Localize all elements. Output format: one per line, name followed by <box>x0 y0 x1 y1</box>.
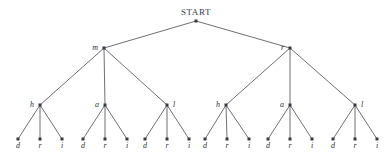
node-label-n-m: m <box>92 43 98 52</box>
node-label-l-ra-r: r <box>288 141 292 150</box>
tree-canvas: STARTmrhalhaldridridridridridri <box>0 0 392 157</box>
node-label-l-ml-d: d <box>143 141 148 150</box>
tree-edge <box>355 105 377 139</box>
tree-edge <box>268 105 290 139</box>
node-label-l-rl-r: r <box>353 141 357 150</box>
tree-edge <box>104 48 167 105</box>
node-label-l-ma-r: r <box>103 141 107 150</box>
tree-edge <box>104 48 105 105</box>
tree-edge <box>226 48 290 105</box>
node-label-l-ra-i: i <box>311 141 313 150</box>
tree-edge <box>83 105 105 139</box>
tree-node-root[interactable] <box>195 20 198 23</box>
tree-edge <box>105 105 127 139</box>
tree-edge <box>18 105 40 139</box>
tree-node-n-m-l[interactable] <box>166 104 169 107</box>
node-label-l-mh-r: r <box>38 141 42 150</box>
tree-edge <box>40 105 62 139</box>
edges-group <box>18 21 377 139</box>
tree-edge <box>145 105 167 139</box>
node-label-l-rh-r: r <box>225 141 229 150</box>
tree-edge <box>226 105 227 139</box>
tree-edge <box>104 21 196 48</box>
tree-edge <box>196 21 290 48</box>
decision-tree-diagram: STARTmrhalhaldridridridridridri <box>0 0 392 157</box>
node-label-l-ml-r: r <box>165 141 169 150</box>
tree-edge <box>40 48 104 105</box>
node-label-l-ma-d: d <box>81 141 86 150</box>
node-label-l-ma-i: i <box>126 141 128 150</box>
node-label-l-ml-i: i <box>188 141 190 150</box>
node-label-n-m-l: l <box>173 100 176 109</box>
tree-edge <box>205 105 226 139</box>
node-label-l-rh-i: i <box>248 141 250 150</box>
node-label-l-rh-d: d <box>203 141 208 150</box>
tree-node-n-m[interactable] <box>103 47 106 50</box>
node-label-n-m-a: a <box>95 100 99 109</box>
tree-node-n-m-h[interactable] <box>39 104 42 107</box>
node-label-l-rl-d: d <box>331 141 336 150</box>
tree-edge <box>290 105 312 139</box>
node-label-l-mh-i: i <box>61 141 63 150</box>
tree-edge <box>226 105 249 139</box>
node-label-l-ra-d: d <box>266 141 271 150</box>
tree-node-n-r-h[interactable] <box>225 104 228 107</box>
tree-edge <box>167 105 189 139</box>
tree-edge <box>290 48 355 105</box>
root-label-root: START <box>181 7 211 17</box>
node-label-l-mh-d: d <box>16 141 21 150</box>
node-label-n-r: r <box>281 43 285 52</box>
node-label-n-r-a: a <box>280 100 284 109</box>
nodes-group <box>17 20 379 141</box>
node-label-l-rl-i: i <box>376 141 378 150</box>
tree-node-n-m-a[interactable] <box>104 104 107 107</box>
node-label-n-r-h: h <box>216 100 220 109</box>
node-label-n-r-l: l <box>361 100 364 109</box>
node-label-n-m-h: h <box>30 100 34 109</box>
tree-node-n-r-l[interactable] <box>354 104 357 107</box>
tree-node-n-r[interactable] <box>289 47 292 50</box>
tree-node-n-r-a[interactable] <box>289 104 292 107</box>
tree-edge <box>333 105 355 139</box>
